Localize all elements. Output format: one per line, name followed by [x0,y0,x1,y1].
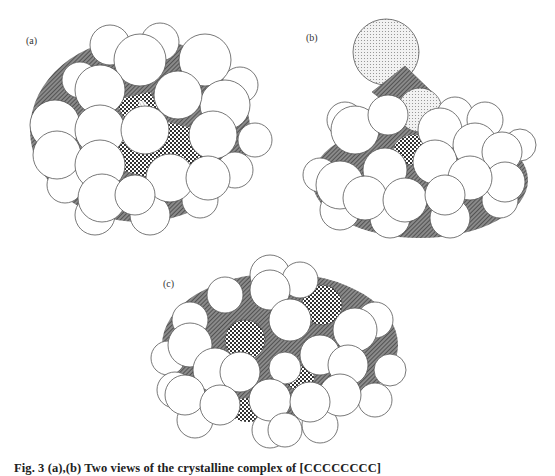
figure-caption: Fig. 3 (a),(b) Two views of the crystall… [14,461,554,476]
panel-c-molecule [151,255,406,448]
panel-b-molecule [303,19,536,238]
panel-label-c: (c) [163,278,174,289]
panel-label-b: (b) [306,32,318,43]
panel-a-molecule [30,23,272,235]
panel-label-a: (a) [26,35,37,46]
